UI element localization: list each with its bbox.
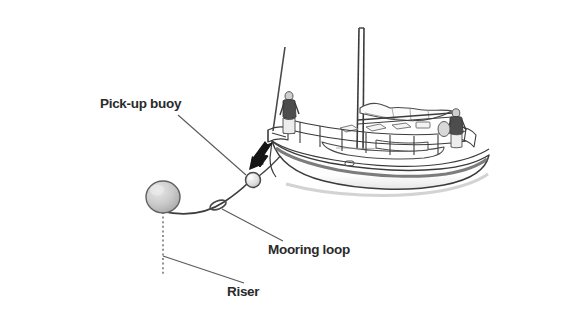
mooring-buoy <box>146 181 180 213</box>
fender <box>438 122 450 137</box>
label-mooring-loop: Mooring loop <box>268 243 350 257</box>
mooring-diagram-figure: Pick-up buoy Mooring loop Riser <box>0 0 582 326</box>
pickup-buoy <box>246 173 261 188</box>
diagram-canvas <box>0 0 582 326</box>
label-riser: Riser <box>227 285 259 299</box>
label-pickup-buoy: Pick-up buoy <box>100 97 181 111</box>
